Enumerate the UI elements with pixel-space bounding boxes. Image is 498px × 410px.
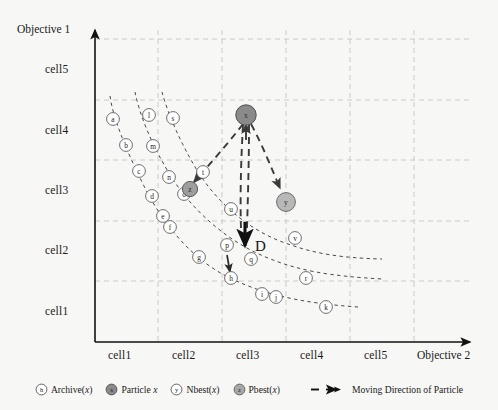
distance-label-D: D — [255, 238, 266, 254]
svg-text:j: j — [274, 293, 277, 302]
svg-text:m: m — [150, 142, 156, 151]
svg-text:g: g — [197, 253, 201, 262]
legend: h Archive(x) x Particle x y Nbest(x) z P… — [0, 376, 498, 402]
special-particles: x y z — [182, 105, 295, 212]
pbest-z: z — [182, 181, 197, 196]
archive-icon: h — [35, 383, 48, 396]
svg-text:i: i — [261, 290, 263, 299]
archive-point-k: k — [320, 301, 333, 314]
archive-point-c: c — [133, 165, 146, 178]
legend-item-pbest: z Pbest(x) — [233, 383, 280, 396]
archive-point-t: t — [197, 166, 210, 179]
x-tick-cell3: cell3 — [236, 349, 259, 361]
x-tick-cell2: cell2 — [172, 349, 195, 361]
x-axis-title: Objective 2 — [417, 349, 470, 361]
nbest-y: y — [277, 193, 296, 212]
x-tick-cell4: cell4 — [300, 349, 323, 361]
archive-point-i: i — [256, 288, 269, 301]
svg-text:k: k — [324, 303, 328, 312]
archive-point-m: m — [147, 140, 160, 153]
legend-label-archive: Archive(x) — [51, 384, 93, 395]
arrow-resultant-left — [241, 125, 243, 228]
y-axis-title: Objective 1 — [17, 23, 70, 35]
archive-point-f: f — [164, 221, 177, 234]
archive-point-r: r — [300, 272, 313, 285]
svg-text:y: y — [284, 198, 288, 207]
legend-label-pbest: Pbest(x) — [249, 384, 280, 395]
legend-item-direction: Moving Direction of Particle — [310, 384, 463, 395]
archive-point-j: j — [270, 291, 283, 304]
x-tick-cell5: cell5 — [364, 349, 387, 361]
archive-point-l: l — [143, 109, 156, 122]
legend-item-nbest: y Nbest(x) — [170, 383, 219, 396]
svg-text:b: b — [124, 141, 128, 150]
archive-point-d: d — [146, 190, 159, 203]
svg-text:z: z — [238, 386, 241, 393]
y-tick-cell1: cell1 — [45, 305, 68, 317]
projection-arrow-p-h — [227, 255, 230, 272]
legend-label-particle: Particle x — [121, 384, 157, 395]
pbest-icon: z — [233, 383, 246, 396]
particle-icon: x — [105, 383, 118, 396]
svg-text:l: l — [148, 111, 150, 120]
nbest-icon: y — [170, 383, 183, 396]
archive-point-e: e — [157, 210, 170, 223]
archive-point-b: b — [120, 139, 133, 152]
archive-point-s: s — [167, 112, 180, 125]
archive-points: a b c d e f g h i j k l m n o p q r s t … — [107, 109, 333, 314]
svg-text:q: q — [249, 255, 253, 264]
legend-label-nbest: Nbest(x) — [186, 384, 219, 395]
archive-point-a: a — [107, 113, 120, 126]
y-tick-cell4: cell4 — [45, 124, 68, 136]
archive-point-u: u — [225, 203, 238, 216]
legend-item-particle: x Particle x — [105, 383, 157, 396]
arrow-x-to-nbest — [251, 124, 280, 188]
arrow-resultant-right — [247, 125, 249, 228]
svg-text:n: n — [167, 173, 171, 182]
legend-item-archive: h Archive(x) — [35, 383, 93, 396]
archive-point-g: g — [193, 251, 206, 264]
y-tick-cell5: cell5 — [45, 63, 68, 75]
archive-point-n: n — [163, 171, 176, 184]
archive-point-p: p — [221, 239, 234, 252]
x-tick-cell1: cell1 — [108, 349, 131, 361]
svg-text:p: p — [225, 241, 229, 250]
svg-text:x: x — [244, 111, 248, 120]
svg-text:v: v — [293, 234, 297, 243]
svg-text:u: u — [229, 205, 233, 214]
svg-text:s: s — [172, 114, 175, 123]
archive-point-q: q — [245, 253, 258, 266]
particle-x: x — [236, 105, 256, 125]
moving-direction-icon — [310, 384, 344, 395]
y-tick-cell3: cell3 — [45, 184, 68, 196]
legend-label-direction: Moving Direction of Particle — [352, 384, 463, 395]
y-tick-cell2: cell2 — [45, 244, 68, 256]
svg-text:d: d — [150, 192, 154, 201]
archive-point-h: h — [225, 272, 238, 285]
svg-text:h: h — [229, 274, 233, 283]
archive-point-v: v — [289, 232, 302, 245]
front-curve-3 — [162, 92, 382, 259]
